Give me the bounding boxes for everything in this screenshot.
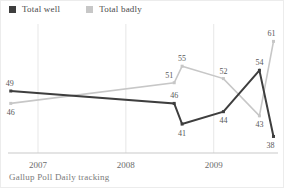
data-point xyxy=(181,123,184,126)
data-point-label: 52 xyxy=(219,67,227,76)
data-point-label: 51 xyxy=(165,71,173,80)
series-line-total-well xyxy=(11,70,274,136)
data-point-label: 46 xyxy=(7,108,15,117)
data-point xyxy=(181,65,184,68)
gallup-line-chart: Total well Total badly 20072008200946515… xyxy=(0,0,284,188)
x-axis-tick-label: 2009 xyxy=(205,160,224,170)
data-point xyxy=(9,102,12,105)
legend-item-total-badly: Total badly xyxy=(86,4,142,14)
data-point xyxy=(9,90,12,93)
data-point xyxy=(173,81,176,84)
data-point-label: 61 xyxy=(267,29,275,38)
x-axis-tick-label: 2007 xyxy=(29,160,48,170)
data-point-label: 49 xyxy=(6,79,14,88)
data-point-label: 55 xyxy=(178,54,186,63)
series-line-total-badly xyxy=(11,41,274,115)
legend-label-total-badly: Total badly xyxy=(99,4,142,14)
data-point xyxy=(222,110,225,113)
source-note: Gallup Poll Daily tracking xyxy=(9,172,109,182)
data-point xyxy=(258,69,261,72)
data-point xyxy=(173,102,176,105)
data-point xyxy=(272,40,275,43)
data-point xyxy=(272,135,275,138)
x-axis-tick-label: 2008 xyxy=(117,160,136,170)
data-point-label: 41 xyxy=(178,129,186,138)
legend-label-total-well: Total well xyxy=(22,4,60,14)
legend-swatch-total-well xyxy=(9,6,16,13)
data-point-label: 43 xyxy=(255,120,263,129)
plot-area: 200720082009465155524361494641445438 xyxy=(1,1,284,188)
data-point-label: 54 xyxy=(255,58,263,67)
data-point-label: 38 xyxy=(266,141,274,150)
data-point-label: 44 xyxy=(219,116,227,125)
legend-swatch-total-badly xyxy=(86,6,93,13)
chart-legend: Total well Total badly xyxy=(9,4,142,14)
legend-item-total-well: Total well xyxy=(9,4,60,14)
data-point-label: 46 xyxy=(170,91,178,100)
data-point xyxy=(222,77,225,80)
data-point xyxy=(258,114,261,117)
